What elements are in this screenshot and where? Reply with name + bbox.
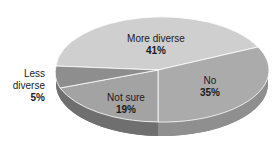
pct-less-diverse: 5% (31, 92, 46, 103)
label-more-diverse: More diverse (127, 33, 185, 44)
pct-more-diverse: 41% (146, 45, 166, 56)
label-no: No (204, 75, 217, 86)
pct-no: 35% (200, 87, 220, 98)
pie-chart: More diverse 41% No 35% Not sure 19% Les… (0, 0, 278, 148)
label-less-diverse-line2: diverse (13, 80, 46, 91)
label-not-sure: Not sure (107, 92, 145, 103)
pct-not-sure: 19% (116, 104, 136, 115)
label-less-diverse-line1: Less (24, 68, 45, 79)
